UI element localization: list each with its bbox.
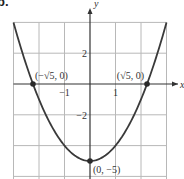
- x-axis-label: x: [179, 79, 184, 90]
- point-label: (√5, 0): [117, 70, 144, 82]
- point-marker: [144, 81, 150, 87]
- x-axis-arrow-icon: [172, 82, 178, 87]
- y-axis-arrow-icon: [88, 8, 93, 14]
- y-tick-label: 2: [82, 48, 87, 59]
- point-label: (0, −5): [93, 164, 120, 176]
- point-marker: [30, 81, 36, 87]
- point-marker: [87, 158, 93, 164]
- x-tick-label: 1: [113, 87, 118, 98]
- y-tick-label: −2: [76, 110, 87, 121]
- y-axis-label: y: [93, 0, 99, 9]
- x-tick-label: −1: [59, 87, 70, 98]
- parabola-graph: xy (−√5, 0)(√5, 0)(0, −5) −112−2: [0, 0, 184, 179]
- point-label: (−√5, 0): [35, 70, 68, 82]
